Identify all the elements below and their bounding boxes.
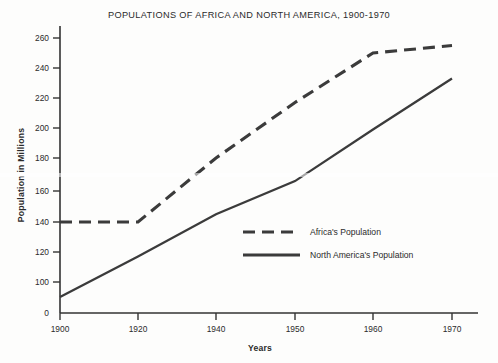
- chart-title: POPULATIONS OF AFRICA AND NORTH AMERICA,…: [108, 10, 390, 20]
- y-tick-labels: 260 240 220 200 180 160 140 120 100 0: [35, 33, 49, 318]
- y-tick-label: 240: [35, 63, 49, 73]
- x-axis-title: Years: [248, 343, 272, 353]
- y-tick-label: 180: [35, 153, 49, 163]
- y-tick-label: 140: [35, 217, 49, 227]
- y-tick-label: 260: [35, 33, 49, 43]
- legend-label-africa: Africa's Population: [310, 227, 381, 237]
- y-tick-label: 220: [35, 93, 49, 103]
- y-tick-label: 160: [35, 186, 49, 196]
- x-tick-label: 1920: [129, 324, 148, 334]
- x-tick-label: 1900: [51, 324, 70, 334]
- y-tick-label: 120: [35, 247, 49, 257]
- x-tick-label: 1940: [207, 324, 226, 334]
- series-line-africa: [60, 46, 452, 223]
- series-line-north-america: [60, 79, 452, 298]
- y-tick-label: 100: [35, 277, 49, 287]
- y-tick-label: 0: [44, 308, 49, 318]
- x-tick-marks: [60, 313, 452, 320]
- y-tick-label: 200: [35, 123, 49, 133]
- chart-legend: Africa's Population North America's Popu…: [243, 227, 414, 260]
- y-axis-title: Population in Millions: [16, 128, 26, 222]
- x-tick-label: 1950: [286, 324, 305, 334]
- x-tick-label: 1960: [364, 324, 383, 334]
- y-tick-marks: [53, 38, 60, 282]
- legend-label-north-america: North America's Population: [310, 250, 414, 260]
- population-line-chart: POPULATIONS OF AFRICA AND NORTH AMERICA,…: [0, 0, 498, 363]
- chart-container: POPULATIONS OF AFRICA AND NORTH AMERICA,…: [0, 0, 498, 363]
- x-tick-label: 1970: [443, 324, 462, 334]
- x-tick-labels: 1900 1920 1940 1950 1960 1970: [51, 324, 462, 334]
